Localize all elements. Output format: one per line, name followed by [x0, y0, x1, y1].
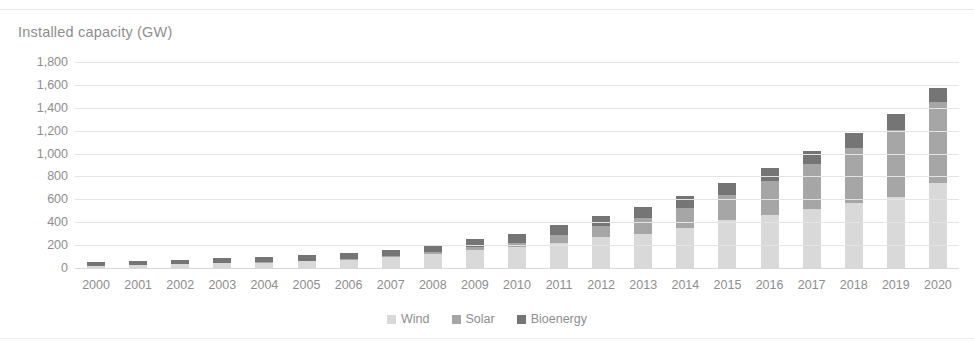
- bar-segment-wind[interactable]: [887, 197, 905, 268]
- chart-legend: WindSolarBioenergy: [0, 312, 974, 326]
- bar-group-2000[interactable]: [75, 62, 117, 268]
- bar-stack[interactable]: [340, 253, 358, 268]
- bar-group-2001[interactable]: [117, 62, 159, 268]
- legend-label: Wind: [401, 312, 429, 326]
- bar-stack[interactable]: [761, 168, 779, 268]
- bar-segment-solar[interactable]: [634, 218, 652, 234]
- bar-group-2006[interactable]: [328, 62, 370, 268]
- bar-group-2015[interactable]: [706, 62, 748, 268]
- bar-segment-wind[interactable]: [382, 257, 400, 268]
- x-axis-tick-label-2018: 2018: [833, 278, 875, 298]
- x-axis-tick-label-2010: 2010: [496, 278, 538, 298]
- bar-segment-solar[interactable]: [761, 181, 779, 215]
- bar-stack[interactable]: [718, 183, 736, 268]
- x-axis: 2000200120022003200420052006200720082009…: [75, 278, 959, 298]
- bar-segment-bioenergy[interactable]: [592, 216, 610, 226]
- bar-segment-solar[interactable]: [803, 164, 821, 209]
- bar-segment-wind[interactable]: [298, 261, 316, 268]
- bar-stack[interactable]: [592, 216, 610, 268]
- bar-group-2005[interactable]: [285, 62, 327, 268]
- bar-segment-solar[interactable]: [887, 130, 905, 197]
- bar-segment-wind[interactable]: [340, 260, 358, 268]
- bar-segment-bioenergy[interactable]: [845, 133, 863, 147]
- x-axis-tick-label-2016: 2016: [749, 278, 791, 298]
- bar-stack[interactable]: [213, 258, 231, 268]
- bar-segment-bioenergy[interactable]: [929, 88, 947, 102]
- legend-item-solar[interactable]: Solar: [452, 312, 495, 326]
- bar-group-2018[interactable]: [833, 62, 875, 268]
- bar-segment-wind[interactable]: [592, 237, 610, 268]
- bar-stack[interactable]: [424, 245, 442, 268]
- bar-segment-bioenergy[interactable]: [634, 207, 652, 218]
- bar-segment-solar[interactable]: [676, 208, 694, 228]
- x-axis-tick-label-2020: 2020: [917, 278, 959, 298]
- gridline: [75, 176, 959, 177]
- bar-stack[interactable]: [634, 207, 652, 268]
- bar-segment-wind[interactable]: [803, 209, 821, 268]
- bar-group-2008[interactable]: [412, 62, 454, 268]
- bar-group-2016[interactable]: [749, 62, 791, 268]
- bar-group-2012[interactable]: [580, 62, 622, 268]
- bar-stack[interactable]: [129, 261, 147, 268]
- bar-segment-solar[interactable]: [929, 102, 947, 183]
- bar-stack[interactable]: [550, 225, 568, 268]
- y-axis-tick-label: 1,800: [8, 55, 68, 69]
- bar-stack[interactable]: [508, 234, 526, 268]
- bar-segment-bioenergy[interactable]: [718, 183, 736, 195]
- bar-segment-wind[interactable]: [508, 247, 526, 268]
- gridline: [75, 245, 959, 246]
- x-axis-tick-label-2019: 2019: [875, 278, 917, 298]
- bar-segment-bioenergy[interactable]: [803, 151, 821, 165]
- legend-item-wind[interactable]: Wind: [387, 312, 429, 326]
- bar-stack[interactable]: [929, 88, 947, 268]
- bar-stack[interactable]: [382, 250, 400, 268]
- plot-area: [75, 62, 959, 268]
- bar-segment-wind[interactable]: [550, 243, 568, 268]
- bar-stack[interactable]: [466, 239, 484, 268]
- bar-segment-bioenergy[interactable]: [761, 168, 779, 181]
- bar-segment-bioenergy[interactable]: [508, 234, 526, 242]
- bar-group-2004[interactable]: [243, 62, 285, 268]
- bar-segment-solar[interactable]: [592, 226, 610, 238]
- gridline: [75, 199, 959, 200]
- bar-group-2002[interactable]: [159, 62, 201, 268]
- bar-stack[interactable]: [255, 257, 273, 268]
- x-axis-tick-label-2011: 2011: [538, 278, 580, 298]
- bar-group-2014[interactable]: [664, 62, 706, 268]
- bar-segment-bioenergy[interactable]: [887, 114, 905, 129]
- x-axis-tick-label-2001: 2001: [117, 278, 159, 298]
- legend-item-bioenergy[interactable]: Bioenergy: [517, 312, 587, 326]
- bar-segment-wind[interactable]: [929, 183, 947, 268]
- bar-stack[interactable]: [171, 260, 189, 268]
- bar-group-2020[interactable]: [917, 62, 959, 268]
- scan-artifact-top: [0, 9, 974, 10]
- bar-segment-bioenergy[interactable]: [424, 245, 442, 252]
- bar-group-2011[interactable]: [538, 62, 580, 268]
- bar-segment-bioenergy[interactable]: [382, 250, 400, 257]
- scan-artifact-bottom: [0, 338, 974, 339]
- bar-segment-bioenergy[interactable]: [550, 225, 568, 234]
- x-axis-tick-label-2008: 2008: [412, 278, 454, 298]
- bar-group-2010[interactable]: [496, 62, 538, 268]
- bar-segment-wind[interactable]: [466, 250, 484, 268]
- bar-segment-wind[interactable]: [634, 234, 652, 268]
- bar-segment-wind[interactable]: [845, 203, 863, 268]
- bar-group-2009[interactable]: [454, 62, 496, 268]
- bar-segment-wind[interactable]: [424, 254, 442, 268]
- bar-group-2019[interactable]: [875, 62, 917, 268]
- bar-segment-solar[interactable]: [550, 235, 568, 243]
- bar-group-2017[interactable]: [791, 62, 833, 268]
- bar-segment-bioenergy[interactable]: [676, 196, 694, 208]
- bar-group-2013[interactable]: [622, 62, 664, 268]
- bar-stack[interactable]: [298, 255, 316, 268]
- y-axis-tick-label: 1,400: [8, 101, 68, 115]
- x-axis-tick-label-2009: 2009: [454, 278, 496, 298]
- bar-group-2007[interactable]: [370, 62, 412, 268]
- bars-layer: [75, 62, 959, 268]
- gridline: [75, 85, 959, 86]
- bar-stack[interactable]: [803, 151, 821, 269]
- bar-group-2003[interactable]: [201, 62, 243, 268]
- bar-segment-wind[interactable]: [676, 228, 694, 268]
- bar-stack[interactable]: [676, 196, 694, 268]
- y-axis-tick-label: 1,200: [8, 124, 68, 138]
